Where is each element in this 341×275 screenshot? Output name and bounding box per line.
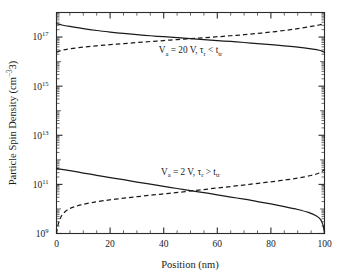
- figure-container: 1091011101310151017 020406080100 Va = 20…: [0, 0, 341, 275]
- y-tick-label: 1017: [32, 30, 49, 42]
- y-axis-tick-labels: 1091011101310151017: [32, 30, 49, 238]
- chart-annotations: Va = 20 V, τr < ttrVa = 2 V, τr > ttr: [159, 45, 223, 178]
- x-tick-label: 20: [105, 239, 115, 249]
- annotation-low-bias: Va = 2 V, τr > ttr: [161, 167, 221, 179]
- annotation-high-bias: Va = 20 V, τr < ttr: [159, 45, 223, 57]
- curve-series-2: [57, 168, 325, 233]
- y-tick-label: 109: [36, 227, 50, 239]
- x-tick-label: 80: [266, 239, 276, 249]
- y-tick-label: 1013: [32, 129, 49, 141]
- x-tick-label: 40: [159, 239, 169, 249]
- y-tick-label: 1015: [32, 80, 49, 92]
- spin-density-chart: 1091011101310151017 020406080100 Va = 20…: [0, 0, 341, 275]
- x-tick-label: 60: [213, 239, 223, 249]
- y-axis-major-ticks: [57, 37, 325, 233]
- y-axis-title: Particle Spin Density (cm−33): [6, 60, 19, 185]
- x-tick-label: 0: [54, 239, 59, 249]
- curve-series-3: [57, 170, 325, 234]
- x-axis-tick-labels: 020406080100: [54, 239, 332, 249]
- y-tick-label: 1011: [33, 178, 49, 190]
- x-tick-label: 100: [317, 239, 332, 249]
- x-axis-title: Position (nm): [161, 259, 219, 271]
